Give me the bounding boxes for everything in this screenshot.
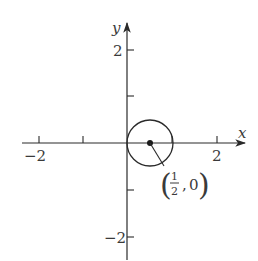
- y-axis-label: y: [111, 19, 121, 37]
- x-axis-label: x: [238, 124, 247, 142]
- fraction-denominator: 2: [171, 185, 178, 198]
- x-tick-label-neg2: −2: [24, 147, 46, 165]
- close-paren: ): [198, 167, 210, 202]
- y-tick-label-neg2: −2: [104, 229, 126, 247]
- x-tick-label-2: 2: [212, 147, 222, 165]
- open-paren: (: [160, 167, 172, 202]
- coordinate-plane: y x −2 2 2 −2 ( 1 2 , 0 ): [0, 0, 258, 261]
- comma: ,: [182, 176, 187, 194]
- fraction-numerator: 1: [171, 170, 178, 183]
- leader-line: [150, 143, 164, 166]
- y-tick-label-2: 2: [113, 42, 123, 60]
- center-label: ( 1 2 , 0 ): [160, 167, 210, 202]
